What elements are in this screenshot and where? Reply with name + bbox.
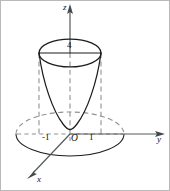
coordinate-diagram-svg [1,1,170,191]
height-label-4: 4 [67,41,72,50]
paraboloid-right-branch [70,53,101,130]
tick-label-negative-one: -1 [42,133,50,142]
x-axis-arrowhead-icon [27,170,37,179]
x-axis-label: x [37,175,41,184]
figure-container: z y x 4 -1 O 1 [0,0,170,191]
z-axis-label: z [63,3,67,12]
origin-label: O [71,134,78,144]
x-axis-line [33,134,70,173]
y-axis-label: y [157,135,161,144]
tick-label-positive-one: 1 [89,133,94,142]
paraboloid-left-branch [39,53,70,130]
